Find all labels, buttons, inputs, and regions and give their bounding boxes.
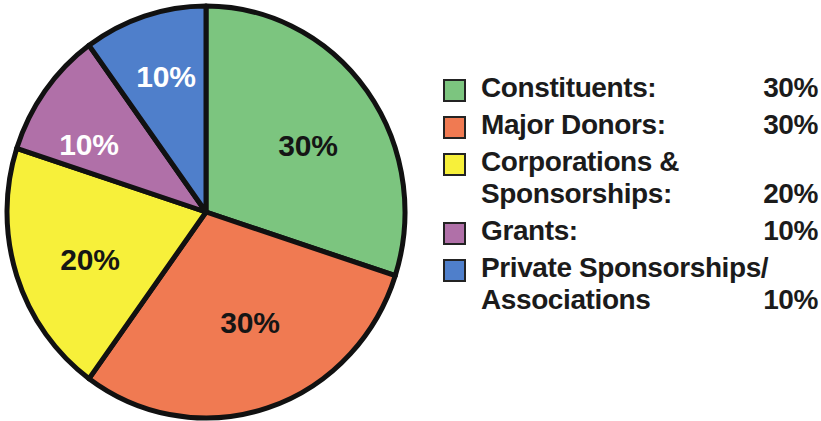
legend-value: 30%: [733, 109, 818, 141]
legend-value: 10%: [733, 215, 818, 247]
legend-color-swatch: [443, 116, 466, 139]
legend-text-column: Corporations & Sponsorships:20%: [481, 146, 818, 210]
legend-row[interactable]: Constituents:30%: [443, 72, 818, 104]
legend-label: Private Sponsorships/ Associations: [481, 252, 768, 315]
legend-label: Grants:: [481, 215, 578, 246]
legend-text-column: Private Sponsorships/ Associations10%: [481, 252, 818, 316]
legend-color-swatch: [443, 222, 466, 245]
legend-label: Corporations & Sponsorships:: [481, 146, 679, 209]
pie-svg: 30%30%20%10%10%: [0, 0, 420, 421]
pie-chart-figure: 30%30%20%10%10% Constituents:30%Major Do…: [0, 0, 821, 421]
legend-row[interactable]: Major Donors:30%: [443, 109, 818, 141]
pie-slice-label: 30%: [278, 129, 337, 162]
legend-label: Major Donors:: [481, 109, 666, 140]
legend-text-column: Grants:10%: [481, 215, 818, 247]
legend-value: 20%: [733, 178, 818, 210]
legend-value: 10%: [733, 284, 818, 316]
legend-label: Constituents:: [481, 72, 656, 103]
legend-text-column: Constituents:30%: [481, 72, 818, 104]
chart-legend: Constituents:30%Major Donors:30%Corporat…: [443, 72, 818, 321]
legend-text-column: Major Donors:30%: [481, 109, 818, 141]
pie-slices: [7, 6, 405, 418]
pie-slice-label: 30%: [220, 306, 279, 339]
pie-slice-label: 10%: [136, 60, 195, 93]
legend-value: 30%: [733, 72, 818, 104]
pie-chart-graphic: 30%30%20%10%10%: [0, 0, 420, 421]
legend-color-swatch: [443, 259, 466, 282]
pie-slice-label: 20%: [60, 243, 119, 276]
legend-color-swatch: [443, 79, 466, 102]
pie-slice-label: 10%: [59, 128, 118, 161]
legend-row[interactable]: Corporations & Sponsorships:20%: [443, 146, 818, 210]
legend-row[interactable]: Grants:10%: [443, 215, 818, 247]
legend-color-swatch: [443, 153, 466, 176]
legend-row[interactable]: Private Sponsorships/ Associations10%: [443, 252, 818, 316]
